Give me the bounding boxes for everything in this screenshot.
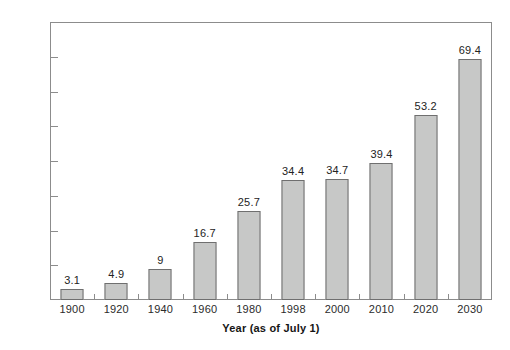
bar-value-label: 16.7 [194, 227, 216, 239]
bar [326, 179, 349, 300]
bar [370, 163, 393, 300]
bar-group: 16.7 [183, 22, 227, 300]
x-axis-tick-label: 1920 [94, 303, 138, 315]
x-axis-tick-mark [227, 294, 228, 300]
bar-value-label: 9 [157, 254, 163, 266]
x-axis-title: Year (as of July 1) [50, 322, 492, 334]
bar [105, 283, 128, 300]
bar-group: 53.2 [404, 22, 448, 300]
x-axis-tick-mark [359, 294, 360, 300]
x-axis-tick-mark [138, 294, 139, 300]
bar-value-label: 34.4 [282, 165, 304, 177]
x-axis-tick-label: 1960 [183, 303, 227, 315]
bar [237, 211, 260, 300]
bar-value-label: 53.2 [415, 100, 437, 112]
x-axis-tick-mark [404, 294, 405, 300]
x-axis-tick-label: 1940 [138, 303, 182, 315]
bar-value-label: 39.4 [370, 148, 392, 160]
bar [61, 289, 84, 300]
x-axis-tick-mark [271, 294, 272, 300]
x-axis-tick-mark [448, 294, 449, 300]
x-axis-tick-mark [183, 294, 184, 300]
x-axis-tick-mark [94, 294, 95, 300]
x-axis-tick-label: 2010 [359, 303, 403, 315]
bar-group: 34.7 [315, 22, 359, 300]
bar [193, 242, 216, 300]
bar-group: 3.1 [50, 22, 94, 300]
x-axis-tick-labels: 1900192019401960198019982000201020202030 [50, 303, 492, 319]
bars-layer: 3.14.9916.725.734.434.739.453.269.4 [50, 22, 492, 300]
bar-group: 4.9 [94, 22, 138, 300]
bar-value-label: 3.1 [64, 274, 80, 286]
bar-value-label: 25.7 [238, 196, 260, 208]
bar-value-label: 34.7 [326, 164, 348, 176]
bar-group: 39.4 [359, 22, 403, 300]
bar [414, 115, 437, 300]
x-axis-tick-mark [315, 294, 316, 300]
bar-value-label: 4.9 [108, 268, 124, 280]
bar-chart: 01020304050607080 3.14.9916.725.734.434.… [0, 0, 510, 350]
bar [458, 59, 481, 300]
bar [282, 180, 305, 300]
bar-group: 69.4 [448, 22, 492, 300]
bar-group: 25.7 [227, 22, 271, 300]
x-axis-tick-label: 1900 [50, 303, 94, 315]
bar-group: 9 [138, 22, 182, 300]
x-axis-tick-label: 1980 [227, 303, 271, 315]
x-axis-tick-label: 1998 [271, 303, 315, 315]
x-axis-tick-label: 2030 [448, 303, 492, 315]
bar-group: 34.4 [271, 22, 315, 300]
bar-value-label: 69.4 [459, 44, 481, 56]
x-axis-tick-label: 2020 [404, 303, 448, 315]
x-axis-tick-label: 2000 [315, 303, 359, 315]
bar [149, 269, 172, 300]
